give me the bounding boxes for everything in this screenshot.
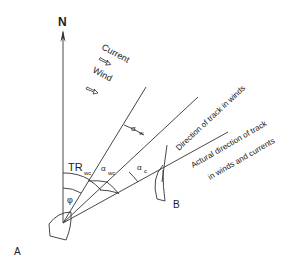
north-arrow	[61, 30, 66, 223]
point-a-label: A	[14, 246, 21, 257]
phi-label: φ	[67, 195, 73, 205]
tr-label: TR	[68, 161, 83, 173]
alpha-wc-arc-b	[100, 190, 118, 193]
boat-b-icon	[155, 145, 167, 201]
actual-track-label-2: in winds and currents	[207, 136, 277, 182]
alpha-c-label: α	[137, 163, 142, 172]
alpha-w-label: α	[131, 124, 136, 133]
current-legend: Current	[99, 42, 132, 66]
alpha-c-arc	[129, 172, 138, 182]
boat-a-icon	[49, 212, 71, 240]
track-diagram: N Current Wind φ TR wc α wc α w α c Dire…	[0, 0, 304, 269]
alpha-w-sub-label: w	[138, 130, 144, 136]
wind-arrow-icon	[86, 87, 98, 94]
point-b-label: B	[173, 199, 180, 210]
wind-heading-line	[63, 87, 146, 223]
alpha-wc-arc-c	[107, 182, 119, 194]
tr-arc-ext	[89, 180, 101, 190]
current-arrow-icon	[99, 57, 112, 65]
current-label: Current	[100, 42, 132, 65]
wind-legend: Wind	[86, 65, 114, 94]
phi-arc	[63, 188, 81, 193]
alpha-wc-label: α	[101, 164, 106, 173]
tr-sub-label: wc	[83, 170, 91, 176]
wind-label: Wind	[91, 65, 114, 83]
north-label: N	[58, 15, 67, 29]
alpha-c-sub-label: c	[144, 168, 147, 174]
alpha-wc-sub-label: wc	[107, 170, 115, 176]
